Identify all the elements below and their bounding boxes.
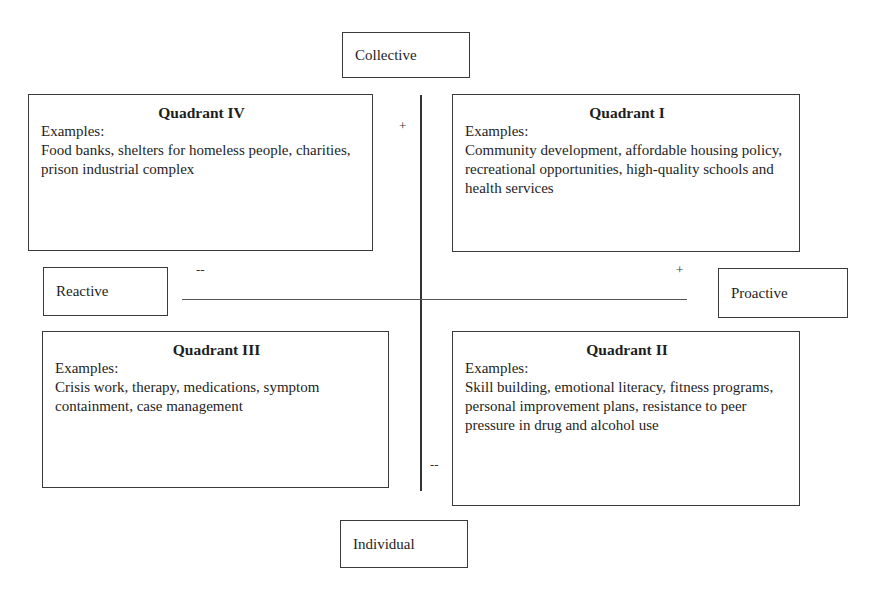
individual-text: Individual <box>353 536 415 553</box>
axis-label-proactive: Proactive <box>718 268 848 318</box>
quadrant-i-box: Quadrant I Examples: Community developme… <box>452 94 800 252</box>
axis-label-collective: Collective <box>342 32 470 78</box>
axis-label-reactive: Reactive <box>43 267 168 316</box>
quadrant-ii-box: Quadrant II Examples: Skill building, em… <box>452 331 800 506</box>
reactive-text: Reactive <box>56 283 108 300</box>
quadrant-iii-title: Quadrant III <box>55 340 378 359</box>
quadrant-ii-title: Quadrant II <box>465 340 789 359</box>
sign-top-plus: + <box>399 118 406 134</box>
sign-right-plus: + <box>676 262 683 278</box>
quadrant-ii-examples: Skill building, emotional literacy, fitn… <box>465 378 790 435</box>
quadrant-i-examples-label: Examples: <box>465 122 789 141</box>
quadrant-iii-examples-label: Examples: <box>55 359 378 378</box>
proactive-text: Proactive <box>731 285 788 302</box>
quadrant-iv-examples-label: Examples: <box>41 122 362 141</box>
collective-text: Collective <box>355 47 417 64</box>
quadrant-i-examples: Community development, affordable housin… <box>465 141 783 198</box>
quadrant-i-title: Quadrant I <box>465 103 789 122</box>
sign-bottom-minus: -- <box>430 457 439 473</box>
horizontal-axis-line <box>182 299 687 300</box>
quadrant-iii-box: Quadrant III Examples: Crisis work, ther… <box>42 331 389 488</box>
quadrant-iv-title: Quadrant IV <box>41 103 362 122</box>
quadrant-iii-examples: Crisis work, therapy, medications, sympt… <box>55 378 355 416</box>
vertical-axis-line <box>420 95 422 491</box>
axis-label-individual: Individual <box>340 520 468 568</box>
sign-left-minus: -- <box>196 262 205 278</box>
quadrant-iv-examples: Food banks, shelters for homeless people… <box>41 141 351 179</box>
quadrant-iv-box: Quadrant IV Examples: Food banks, shelte… <box>28 94 373 251</box>
quadrant-ii-examples-label: Examples: <box>465 359 789 378</box>
